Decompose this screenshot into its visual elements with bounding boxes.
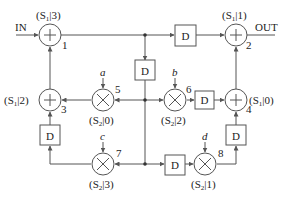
svg-text:D: D (46, 130, 54, 142)
svg-text:D: D (232, 130, 240, 142)
adder-2 (225, 24, 247, 46)
junction-dot (143, 33, 147, 37)
output-label: OUT (255, 21, 278, 33)
coef-label: b (172, 66, 178, 78)
svg-text:D: D (201, 94, 209, 106)
coef-label: a (100, 66, 106, 78)
schedule-tag: (S2|0) (89, 114, 114, 128)
schedule-tag: (S2|3) (89, 178, 114, 192)
svg-text:D: D (141, 65, 149, 77)
multiplier-8 (194, 153, 216, 175)
adder-4 (225, 89, 247, 111)
multiplier-6 (164, 89, 186, 111)
coef-label: d (202, 130, 208, 142)
schedule-tag: (S2|1) (191, 178, 216, 192)
signal-flow-diagram: D D D D D D (0, 0, 295, 198)
delay-top: D (175, 25, 196, 46)
schedule-tag: (S1|2) (4, 94, 29, 108)
node-number: 2 (246, 39, 252, 51)
node-number: 8 (218, 147, 224, 159)
delay-mid-right: D (195, 91, 214, 109)
node-number: 6 (186, 83, 192, 95)
delay-left: D (40, 125, 60, 145)
node-number: 3 (61, 103, 67, 115)
schedule-tag: (S1|0) (249, 94, 274, 108)
svg-text:D: D (171, 159, 179, 171)
junction-dot (143, 98, 147, 102)
node-number: 7 (116, 147, 122, 159)
schedule-tag: (S1|3) (36, 9, 61, 23)
schedule-tag: (S1|1) (222, 9, 247, 23)
delay-bottom: D (165, 155, 185, 175)
schedule-tag: (S2|2) (161, 114, 186, 128)
node-number: 1 (62, 39, 68, 51)
junction-dot (143, 162, 147, 166)
input-label: IN (15, 21, 27, 33)
adder-3 (39, 89, 61, 111)
svg-text:D: D (182, 30, 190, 42)
multiplier-5 (92, 89, 114, 111)
coef-label: c (100, 130, 105, 142)
node-number: 5 (115, 83, 121, 95)
adder-1 (39, 24, 61, 46)
delay-center: D (135, 60, 155, 80)
multiplier-7 (92, 153, 114, 175)
delay-right: D (226, 125, 246, 145)
